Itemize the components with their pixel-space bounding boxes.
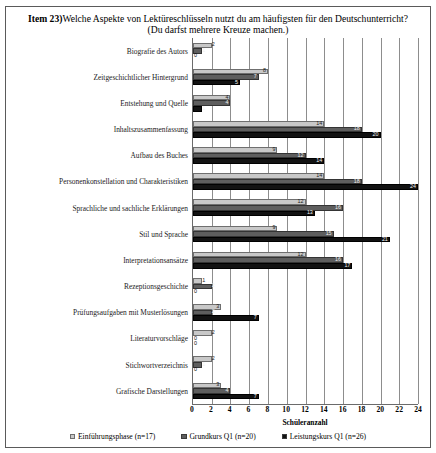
x-axis-ticks: 024681012141618202224 [192, 405, 418, 418]
bar-value-label: 1 [202, 106, 205, 111]
category-label: Biografie des Autors [10, 39, 188, 65]
chart-frame: Item 23)Welche Aspekte von Lektüreschlüs… [5, 6, 431, 448]
bar-row: 1 [193, 106, 418, 112]
bar-value-label: 0 [194, 342, 197, 347]
x-tick-label: 16 [339, 406, 347, 414]
chart-page: Item 23)Welche Aspekte von Lektüreschlüs… [0, 0, 436, 453]
x-tick-label: 22 [395, 406, 403, 414]
bar-row: 0 [193, 54, 418, 60]
bar-value-label: 5 [235, 80, 238, 85]
chart-title-block: Item 23)Welche Aspekte von Lektüreschlüs… [6, 7, 430, 38]
bar: 17 [193, 263, 352, 269]
bar-value-label: 17 [344, 263, 350, 268]
bar-group: 210 [193, 38, 418, 64]
legend-item[interactable]: Grundkurs Q1 (n=20) [181, 432, 255, 441]
bar-group: 200 [193, 326, 418, 352]
chart-subtitle: (Du darfst mehrere Kreuze machen.) [12, 24, 424, 35]
category-label: Sprachliche und sachliche Erklärungen [10, 196, 188, 222]
bar-group: 441 [193, 90, 418, 116]
bar-group: 141824 [193, 169, 418, 195]
legend-label: Grundkurs Q1 (n=20) [189, 432, 255, 441]
bar-row: 24 [193, 184, 418, 190]
bar: 13 [193, 211, 315, 217]
legend-label: Einführungsphase (n=17) [78, 432, 155, 441]
x-tick-label: 0 [190, 406, 194, 414]
bar-group: 121617 [193, 247, 418, 273]
bar-value-label: 0 [194, 368, 197, 373]
category-label: Literaturvorschläge [10, 327, 188, 353]
category-label: Stichwortverzeichnis [10, 353, 188, 379]
legend-swatch [70, 434, 76, 440]
bar: 7 [193, 315, 259, 321]
bar-row: 17 [193, 263, 418, 269]
legend-label: Leistungskurs Q1 (n=26) [290, 432, 366, 441]
bar-group: 875 [193, 64, 418, 90]
bar-row: 5 [193, 80, 418, 86]
x-tick-label: 12 [301, 406, 309, 414]
bar: 7 [193, 394, 259, 400]
x-tick-label: 20 [377, 406, 385, 414]
bar-value-label: 21 [382, 237, 388, 242]
legend-swatch [181, 434, 187, 440]
bar: 1 [193, 106, 202, 112]
bar-groups: 2108754411418209121414182412161391521121… [193, 38, 418, 404]
chart-question-text: Welche Aspekte von Lektüreschlüsseln nut… [62, 13, 408, 24]
chart-legend: Einführungsphase (n=17)Grundkurs Q1 (n=2… [6, 427, 430, 447]
x-tick-label: 14 [320, 406, 328, 414]
bar-group: 327 [193, 299, 418, 325]
bar-group: 120 [193, 273, 418, 299]
category-label: Entstehung und Quelle [10, 91, 188, 117]
x-axis-title: Schüleranzahl [282, 418, 327, 427]
bar: 20 [193, 132, 381, 138]
legend-item[interactable]: Einführungsphase (n=17) [70, 432, 155, 441]
bar-group: 91521 [193, 221, 418, 247]
bar-group: 121613 [193, 195, 418, 221]
category-label: Aufbau des Buches [10, 143, 188, 169]
x-tick-label: 8 [265, 406, 269, 414]
x-tick-label: 6 [247, 406, 251, 414]
x-tick-label: 24 [414, 406, 422, 414]
x-tick-label: 18 [358, 406, 366, 414]
bar-group: 141820 [193, 116, 418, 142]
gridline [418, 38, 419, 404]
bar-row: 0 [193, 289, 418, 295]
x-tick-label: 2 [209, 406, 213, 414]
category-label: Prüfungsaufgaben mit Musterlösungen [10, 300, 188, 326]
plot-wrapper: Biografie des AutorsZeitgeschichtlicher … [6, 38, 430, 405]
bar-value-label: 13 [307, 211, 313, 216]
bar-row: 0 [193, 341, 418, 347]
category-label: Interpretationsansätze [10, 248, 188, 274]
bar-value-label: 24 [410, 185, 416, 190]
bar-value-label: 7 [254, 315, 257, 320]
bar: 14 [193, 158, 324, 164]
bar-value-label: 7 [254, 394, 257, 399]
category-label: Zeitgeschichtlicher Hintergrund [10, 65, 188, 91]
category-label: Stil und Sprache [10, 222, 188, 248]
x-tick-label: 4 [228, 406, 232, 414]
bar-row: 21 [193, 237, 418, 243]
item-number: Item 23) [28, 13, 62, 24]
bar-row: 13 [193, 211, 418, 217]
category-axis: Biografie des AutorsZeitgeschichtlicher … [10, 38, 192, 405]
category-label: Grafische Darstellungen [10, 379, 188, 405]
bar: 24 [193, 184, 418, 190]
bar-group: 347 [193, 378, 418, 404]
legend-swatch [282, 434, 288, 440]
bar-group: 91214 [193, 142, 418, 168]
bar-value-label: 0 [194, 54, 197, 59]
bar-row: 20 [193, 132, 418, 138]
bar: 21 [193, 237, 390, 243]
x-axis-spacer [10, 405, 192, 418]
bar-value-label: 0 [194, 289, 197, 294]
bar-row: 7 [193, 315, 418, 321]
bar-row: 0 [193, 368, 418, 374]
bar-row: 14 [193, 158, 418, 164]
bar-row: 7 [193, 394, 418, 400]
plot-area: 2108754411418209121414182412161391521121… [192, 38, 418, 405]
bar: 5 [193, 80, 240, 86]
legend-item[interactable]: Leistungskurs Q1 (n=26) [282, 432, 366, 441]
x-axis-title-row: Schüleranzahl [6, 418, 430, 427]
category-label: Personenkonstellation und Charakteristik… [10, 170, 188, 196]
bar-value-label: 20 [373, 132, 379, 137]
x-tick-label: 10 [282, 406, 290, 414]
